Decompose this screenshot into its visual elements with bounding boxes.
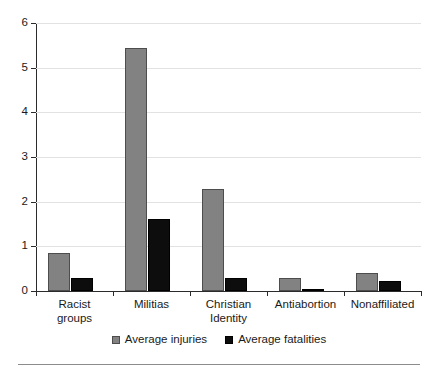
x-axis-category-label: Nonaffiliated <box>344 298 421 312</box>
x-axis-tick-mark <box>36 291 37 296</box>
gridline <box>36 246 421 247</box>
x-axis-tick-mark <box>190 291 191 296</box>
y-axis-tick-mark <box>31 202 36 203</box>
legend-item-label: Average injuries <box>125 334 207 346</box>
x-axis-tick-mark <box>344 291 345 296</box>
y-axis-tick-label: 2 <box>22 196 28 208</box>
bar-fatalities <box>379 281 401 291</box>
bar-injuries <box>48 253 70 291</box>
y-axis-tick-mark <box>31 157 36 158</box>
x-axis-tick-mark <box>267 291 268 296</box>
y-axis-tick-label: 6 <box>22 17 28 29</box>
footer-divider <box>18 364 420 365</box>
bar-injuries <box>202 189 224 291</box>
bar-chart-figure: 0123456 RacistgroupsMilitiasChristianIde… <box>0 0 438 375</box>
y-axis-tick-label: 4 <box>22 107 28 119</box>
y-axis-tick-mark <box>31 246 36 247</box>
gridline <box>36 157 421 158</box>
category-label-line2: Identity <box>190 312 267 326</box>
category-label-line1: Racist <box>59 298 91 310</box>
chart-legend: Average injuriesAverage fatalities <box>0 334 438 346</box>
category-label-line2: groups <box>36 312 113 326</box>
x-axis-tick-mark <box>421 291 422 296</box>
gridline <box>36 68 421 69</box>
x-axis-category-label: Antiabortion <box>267 298 344 312</box>
x-axis-category-label: Racistgroups <box>36 298 113 325</box>
bar-injuries <box>356 273 378 291</box>
x-axis-line <box>36 291 422 292</box>
bar-fatalities <box>71 278 93 291</box>
x-axis-category-label: Militias <box>113 298 190 312</box>
category-label-line1: Nonaffiliated <box>351 298 415 310</box>
bar-fatalities <box>148 219 170 291</box>
injuries-swatch <box>112 336 120 344</box>
legend-item[interactable]: Average injuries <box>112 334 207 346</box>
bar-fatalities <box>302 289 324 291</box>
y-axis-tick-mark <box>31 68 36 69</box>
category-label-line1: Christian <box>206 298 251 310</box>
y-axis-tick-mark <box>31 112 36 113</box>
category-label-line1: Militias <box>134 298 169 310</box>
x-axis-tick-mark <box>113 291 114 296</box>
y-axis-tick-mark <box>31 23 36 24</box>
bar-injuries <box>125 48 147 291</box>
category-label-line1: Antiabortion <box>275 298 336 310</box>
gridline <box>36 23 421 24</box>
y-axis-tick-label: 0 <box>22 285 28 297</box>
legend-item-label: Average fatalities <box>238 334 326 346</box>
fatalities-swatch <box>225 336 233 344</box>
y-axis-tick-label: 5 <box>22 62 28 74</box>
gridline <box>36 202 421 203</box>
x-axis-category-label: ChristianIdentity <box>190 298 267 325</box>
y-axis-tick-label: 3 <box>22 151 28 163</box>
bar-fatalities <box>225 278 247 291</box>
plot-area <box>36 23 421 291</box>
legend-item[interactable]: Average fatalities <box>225 334 326 346</box>
gridline <box>36 112 421 113</box>
y-axis-tick-label: 1 <box>22 241 28 253</box>
bar-injuries <box>279 278 301 291</box>
